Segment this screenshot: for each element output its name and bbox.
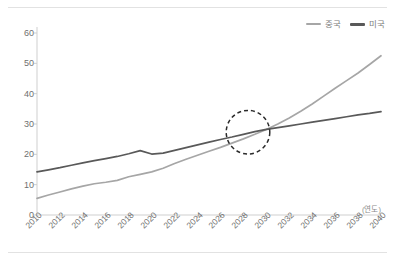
- x-axis-tick-2010: 2010: [24, 211, 43, 230]
- legend-swatch-china: [306, 23, 321, 25]
- x-axis-unit-label: (연도): [362, 206, 381, 214]
- x-axis-tick-2034: 2034: [299, 211, 318, 230]
- x-axis-tick-2020: 2020: [139, 211, 158, 230]
- x-axis-tick-2012: 2012: [47, 211, 66, 230]
- x-axis-tick-2026: 2026: [207, 211, 226, 230]
- legend-label-china: 중국: [325, 20, 341, 29]
- x-axis-tick-2024: 2024: [185, 211, 204, 230]
- legend-label-usa: 미국: [369, 20, 385, 29]
- x-axis-tick-2040: 2040: [368, 211, 387, 230]
- x-axis-tick-2038: 2038: [345, 211, 364, 230]
- legend-item-china[interactable]: 중국: [306, 20, 341, 29]
- legend-swatch-usa: [350, 23, 365, 26]
- x-axis-tick-2018: 2018: [116, 211, 135, 230]
- x-axis-tick-2028: 2028: [230, 211, 249, 230]
- legend-item-usa[interactable]: 미국: [350, 20, 385, 29]
- x-axis-tick-2016: 2016: [93, 211, 112, 230]
- x-axis-tick-2036: 2036: [322, 211, 341, 230]
- x-axis-tick-2030: 2030: [253, 211, 272, 230]
- chart-legend: 중국 미국: [306, 20, 385, 29]
- chart-figure: 0102030405060 20102012201420162018202020…: [0, 0, 395, 265]
- x-axis-tick-labels: 2010201220142016201820202022202420262028…: [0, 0, 395, 265]
- x-axis-tick-2022: 2022: [162, 211, 181, 230]
- x-axis-tick-2014: 2014: [70, 211, 89, 230]
- x-axis-tick-2032: 2032: [276, 211, 295, 230]
